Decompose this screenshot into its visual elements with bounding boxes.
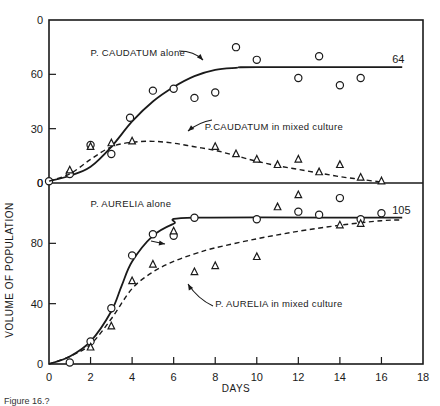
x-tick-label: 0: [46, 371, 52, 383]
figure-caption: Figure 16.?: [4, 396, 50, 406]
triangle-marker: [129, 277, 136, 284]
x-tick-label: 4: [129, 371, 135, 383]
circle-marker: [108, 305, 115, 312]
triangle-marker: [108, 322, 115, 329]
x-tick-label: 14: [334, 371, 346, 383]
series-annotation: P. CAUDATUM alone: [91, 47, 186, 58]
circle-marker: [295, 208, 302, 215]
triangle-marker: [150, 260, 157, 267]
x-tick-label: 18: [417, 371, 429, 383]
y-tick-label: 40: [31, 298, 43, 310]
circle-marker: [149, 231, 156, 238]
circle-marker: [108, 150, 115, 157]
circle-marker: [232, 44, 239, 51]
y-tick-label: 0: [37, 177, 43, 189]
triangle-marker: [170, 227, 177, 234]
triangle-marker: [108, 139, 115, 146]
x-tick-label: 6: [171, 371, 177, 383]
triangle-marker: [337, 221, 344, 228]
triangle-marker: [253, 253, 260, 260]
circle-marker: [316, 53, 323, 60]
triangle-marker: [233, 150, 240, 157]
triangle-marker: [191, 268, 198, 275]
circle-marker: [170, 85, 177, 92]
triangle-marker: [274, 161, 281, 168]
plot-frame: [49, 20, 423, 364]
circle-marker: [336, 82, 343, 89]
x-tick-label: 16: [375, 371, 387, 383]
triangle-marker: [378, 177, 385, 184]
circle-marker: [212, 89, 219, 96]
triangle-marker: [337, 161, 344, 168]
end-value-label: 105: [392, 204, 410, 216]
triangle-marker: [66, 166, 73, 173]
circle-marker: [253, 56, 260, 63]
triangle-marker: [274, 203, 281, 210]
circle-marker: [295, 74, 302, 81]
triangle-marker: [129, 137, 136, 144]
triangle-marker: [212, 262, 219, 269]
x-tick-label: 10: [251, 371, 263, 383]
circle-marker: [129, 252, 136, 259]
end-value-label: 64: [392, 53, 404, 65]
bottom-panel-aurelia: 040800105P. AURELIA aloneP. AURELIA in m…: [31, 177, 411, 370]
circle-marker: [149, 87, 156, 94]
circle-marker: [336, 194, 343, 201]
top-panel-caudatum: 03060064P. CAUDATUM aloneP.CAUDATUM in m…: [31, 14, 405, 189]
triangle-marker: [316, 168, 323, 175]
series-annotation: P. AURELIA in mixed culture: [215, 298, 342, 309]
y-tick-label: 0: [37, 14, 43, 26]
circle-marker: [191, 214, 198, 221]
triangle-marker: [295, 155, 302, 162]
population-growth-chart: 03060064P. CAUDATUM aloneP.CAUDATUM in m…: [0, 0, 440, 406]
triangle-marker: [357, 174, 364, 181]
y-tick-label: 80: [31, 237, 43, 249]
circle-marker: [191, 94, 198, 101]
dashed-fit-curve: [49, 220, 402, 364]
solid-fit-curve: [49, 217, 402, 364]
x-tick-label: 8: [212, 371, 218, 383]
series-annotation: P.CAUDATUM in mixed culture: [205, 121, 343, 132]
y-tick-label: 30: [31, 123, 43, 135]
triangle-marker: [253, 155, 260, 162]
x-tick-label: 2: [87, 371, 93, 383]
circle-marker: [357, 74, 364, 81]
circle-marker: [253, 216, 260, 223]
circle-marker: [316, 211, 323, 218]
circle-marker: [378, 210, 385, 217]
y-tick-label: 60: [31, 68, 43, 80]
triangle-marker: [212, 143, 219, 150]
series-annotation: P. AURELIA alone: [91, 198, 172, 209]
x-tick-label: 12: [292, 371, 304, 383]
x-axis-title: DAYS: [222, 383, 251, 394]
triangle-marker: [295, 191, 302, 198]
circle-marker: [126, 114, 133, 121]
y-axis-title: VOLUME OF POPULATION: [4, 202, 15, 337]
annotation-arrows: [151, 51, 213, 306]
y-tick-label: 0: [37, 358, 43, 370]
circle-marker: [66, 359, 73, 366]
